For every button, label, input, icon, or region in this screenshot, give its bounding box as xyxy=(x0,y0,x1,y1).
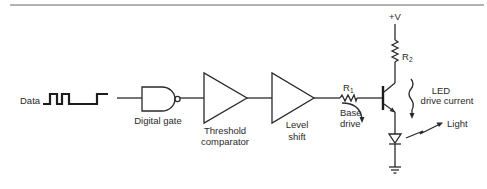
data-label: Data xyxy=(20,95,41,106)
comparator-triangle-icon xyxy=(204,73,247,123)
shift-label: shift xyxy=(288,131,306,142)
drive-label: drive xyxy=(340,118,361,129)
light-emission-arrow-icon xyxy=(406,123,443,139)
drive-current-label: drive current xyxy=(421,95,474,106)
r1-resistor-icon xyxy=(340,95,357,101)
nand-gate-icon xyxy=(142,87,180,111)
supply-label: +V xyxy=(389,11,402,22)
level-shift-triangle-icon xyxy=(272,73,314,123)
current-flow-arrow-icon xyxy=(409,79,415,119)
led-diode-icon xyxy=(389,134,401,144)
r2-resistor-icon xyxy=(392,40,398,62)
light-label: Light xyxy=(447,118,468,129)
npn-transistor-icon xyxy=(383,83,395,113)
threshold-label: Threshold xyxy=(204,125,246,136)
digital-gate-label: Digital gate xyxy=(134,115,182,126)
ground-icon xyxy=(389,167,401,173)
data-waveform-icon xyxy=(43,94,108,104)
r1-label: R1 xyxy=(343,82,354,94)
level-label: Level xyxy=(286,119,309,130)
comparator-label: comparator xyxy=(201,136,249,147)
r2-label: R2 xyxy=(402,51,413,63)
diagram-canvas: Data Digital gate Threshold comparator L… xyxy=(0,0,487,189)
led-driver-diagram: Data Digital gate Threshold comparator L… xyxy=(0,0,487,189)
